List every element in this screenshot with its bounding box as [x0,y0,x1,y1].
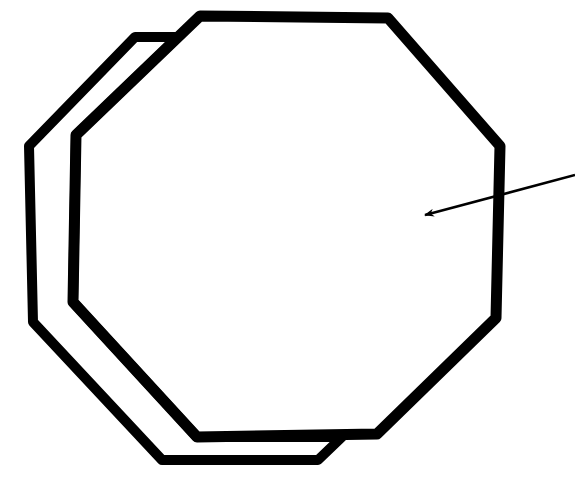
diagram-canvas [0,0,575,481]
front-octagon [73,16,500,437]
